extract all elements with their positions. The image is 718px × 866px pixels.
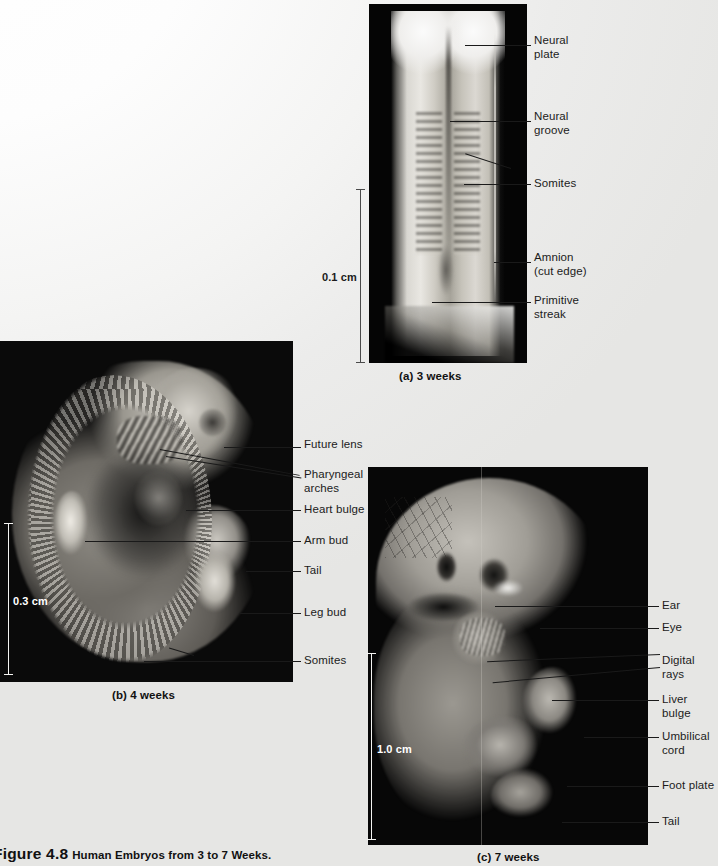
figure-number: Figure 4.8 — [0, 845, 68, 862]
leader-line-heart-bulge — [186, 510, 301, 511]
scale-bar-panel-b — [8, 523, 9, 675]
embryo-photo-4-weeks — [0, 341, 293, 682]
scale-bar-panel-c — [371, 653, 372, 840]
leg-bud-feature — [193, 552, 240, 620]
digital-rays-feature — [460, 618, 505, 656]
leader-line-tail — [246, 571, 301, 572]
panel-caption-b: (b) 4 weeks — [112, 689, 175, 701]
leader-line-primitive-streak — [432, 302, 531, 303]
label-arm-bud: Arm bud — [304, 534, 348, 548]
panel-caption-c: (c) 7 weeks — [477, 851, 539, 863]
label-future-lens: Future lens — [304, 438, 363, 452]
leader-line-umbilical-cord — [584, 737, 659, 738]
figure-caption: Figure 4.8Human Embryos from 3 to 7 Week… — [0, 845, 271, 863]
label-somites-b: Somites — [304, 654, 346, 668]
leader-line-neural-plate — [465, 45, 531, 46]
tail-feature-c — [491, 769, 564, 822]
leader-line-future-lens — [224, 447, 301, 448]
label-leg-bud: Leg bud — [304, 606, 346, 620]
label-pharyngeal-arches: Pharyngeal arches — [304, 468, 363, 495]
label-neural-groove: Neural groove — [534, 110, 570, 137]
leader-line-ear — [495, 606, 659, 607]
label-tail-b: Tail — [304, 564, 322, 578]
label-heart-bulge: Heart bulge — [304, 503, 365, 517]
scale-label-panel-a: 0.1 cm — [322, 271, 357, 283]
label-ear: Ear — [662, 599, 680, 613]
leader-line-liver-bulge — [552, 700, 659, 701]
scale-label-panel-c: 1.0 cm — [377, 743, 412, 755]
label-digital-rays: Digital rays — [662, 654, 718, 681]
label-liver-bulge: Liver bulge — [662, 693, 718, 720]
amnion-feature — [494, 33, 496, 306]
leader-line-eye — [540, 628, 659, 629]
future-lens-feature — [199, 409, 225, 436]
figure-container: 0.1 cm Neural plate Neural groove Somite… — [0, 0, 718, 866]
embryo-4-weeks-rendering — [0, 341, 293, 682]
ear-feature — [435, 550, 457, 584]
leader-line-somites-a — [464, 184, 531, 185]
somites-feature-b — [15, 375, 213, 669]
label-neural-plate: Neural plate — [534, 34, 568, 61]
arm-bud-feature — [53, 491, 91, 566]
primitive-streak-feature — [435, 234, 457, 306]
panel-caption-a: (a) 3 weeks — [399, 370, 461, 382]
figure-title: Human Embryos from 3 to 7 Weeks. — [72, 849, 271, 861]
leader-line-amnion — [494, 262, 531, 263]
leader-line-neural-groove — [450, 121, 531, 122]
label-umbilical-cord: Umbilical cord — [662, 730, 710, 757]
leader-line-somites-b — [144, 661, 301, 662]
leader-line-tail-c — [562, 822, 659, 823]
label-foot-plate: Foot plate — [662, 779, 714, 793]
leader-line-leg-bud — [240, 613, 301, 614]
scale-bar-panel-a — [360, 189, 361, 363]
label-somites-a: Somites — [534, 177, 576, 191]
leader-line-foot-plate — [567, 786, 659, 787]
leader-line-arm-bud — [85, 541, 301, 542]
scale-label-panel-b: 0.3 cm — [13, 595, 48, 607]
label-eye: Eye — [662, 621, 682, 635]
heart-bulge-feature — [135, 471, 182, 526]
label-tail-c: Tail — [662, 815, 680, 829]
label-amnion: Amnion (cut edge) — [534, 251, 587, 278]
label-primitive-streak: Primitive streak — [534, 294, 579, 321]
